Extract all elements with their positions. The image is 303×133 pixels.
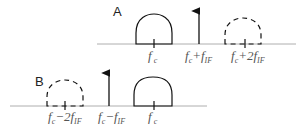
- panel-b-label-fc-minus-2fif: fc−2fIF: [48, 109, 82, 126]
- panel-a-signal-band: [136, 14, 172, 48]
- panel-a-label-fc: fc: [148, 48, 158, 65]
- panel-b-image-band: [47, 80, 83, 110]
- spectrum-diagram: A fc fc+fIF fc+2fIF B: [0, 0, 303, 133]
- panel-b-signal-band: [134, 77, 172, 110]
- panel-b-label-fc: fc: [148, 109, 158, 126]
- panel-a: A fc fc+fIF fc+2fIF: [97, 4, 296, 65]
- panel-a-label-fc-plus-2fif: fc+2fIF: [231, 48, 265, 65]
- panel-b-label: B: [35, 74, 44, 89]
- panel-b-label-fc-minus-fif: fc−fIF: [98, 109, 125, 126]
- panel-a-label: A: [113, 4, 122, 19]
- panel-b: B fc−2fIF fc−fIF fc: [10, 73, 207, 126]
- panel-a-image-band: [225, 18, 261, 48]
- panel-a-label-fc-plus-fif: fc+fIF: [185, 48, 212, 65]
